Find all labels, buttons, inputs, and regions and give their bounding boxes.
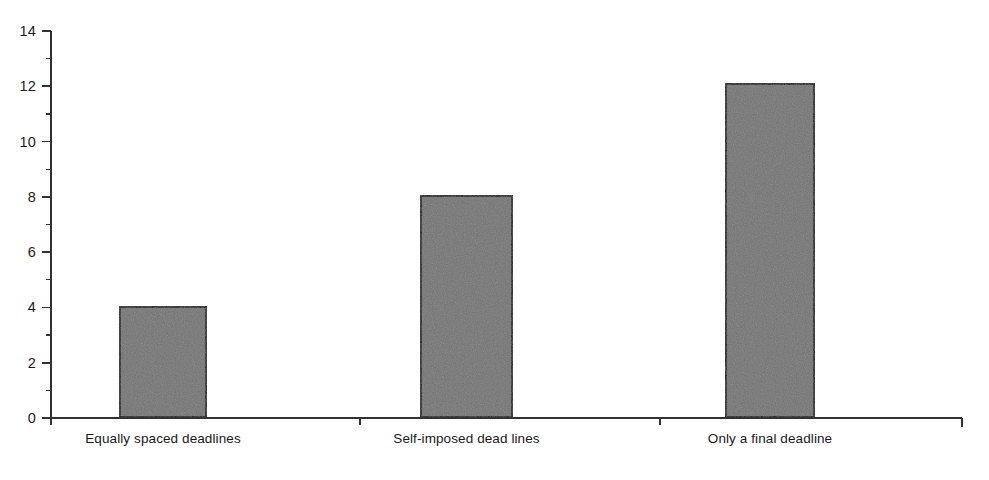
- y-axis-tick-label-2: 2: [0, 356, 36, 371]
- y-axis-tick-label-4: 4: [0, 300, 36, 315]
- y-axis-tick-label-6: 6: [0, 245, 36, 260]
- x-axis-category-label-3: Only a final deadline: [630, 432, 910, 446]
- bar-chart-figure: 02468101214 Equally spaced deadlinesSelf…: [0, 0, 989, 480]
- y-axis-tick-label-0: 0: [0, 411, 36, 426]
- y-axis-tick-label-12: 12: [0, 79, 36, 94]
- chart-plot-area: [0, 0, 989, 480]
- bar-2[interactable]: [420, 195, 513, 418]
- y-axis-tick-label-10: 10: [0, 135, 36, 150]
- bar-1[interactable]: [119, 306, 207, 418]
- bar-3[interactable]: [725, 84, 815, 418]
- x-axis-category-label-1: Equally spaced deadlines: [23, 432, 303, 446]
- y-axis-tick-label-14: 14: [0, 24, 36, 39]
- x-axis-category-label-2: Self-imposed dead lines: [327, 432, 607, 446]
- y-axis-tick-label-8: 8: [0, 190, 36, 205]
